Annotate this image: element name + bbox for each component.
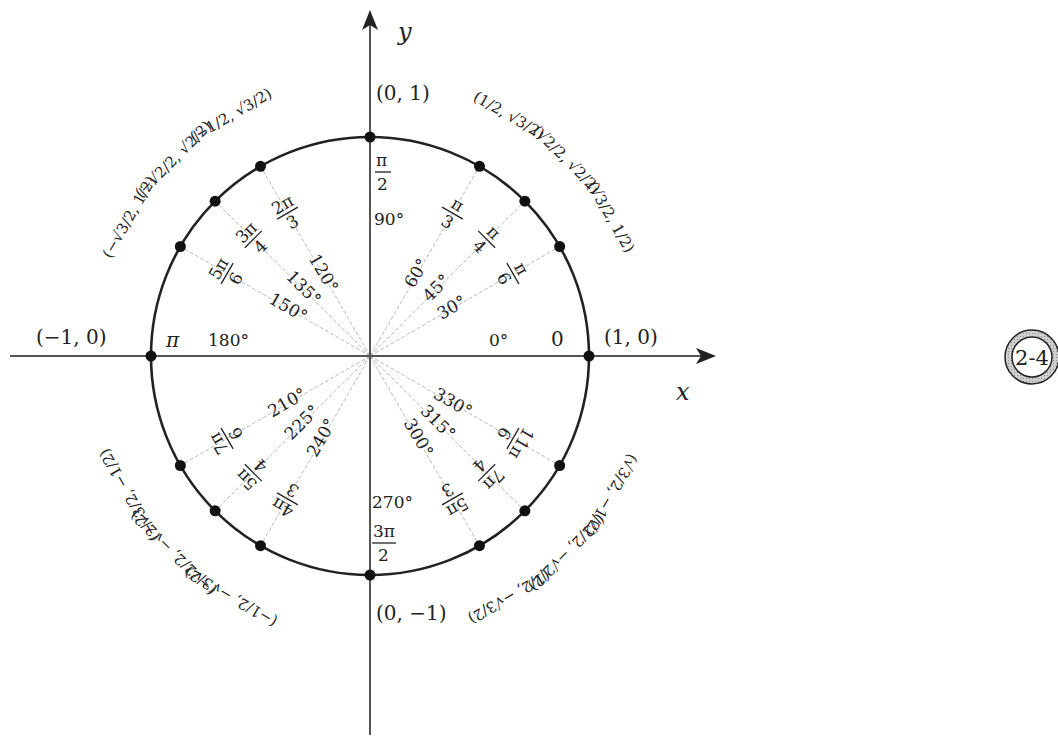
radian-top-num: π (376, 150, 387, 170)
radian-120: 2π3 (267, 190, 308, 237)
point-30 (554, 241, 565, 252)
radian-bottom-num: 3π (373, 521, 395, 541)
svg-text:3: 3 (283, 479, 302, 502)
point-135 (210, 196, 221, 207)
coord-150: (−√3/2, 1/2) (99, 173, 160, 261)
radian-150: 5π6 (204, 253, 251, 294)
unit-circle-figure: y x 30°π6(√3/2, 1/2)45°π4(√2/2, √2/2)60°… (0, 0, 1058, 743)
x-axis (10, 348, 716, 364)
x-axis-label: x (676, 378, 690, 406)
radian-bottom-den: 2 (378, 545, 389, 565)
radian-pi: π (165, 328, 180, 352)
point-90 (365, 132, 376, 143)
unit-circle-diagram: y x 30°π6(√3/2, 1/2)45°π4(√2/2, √2/2)60°… (0, 0, 1058, 743)
svg-text:3: 3 (283, 210, 302, 233)
point-225 (210, 505, 221, 516)
point-300 (474, 540, 485, 551)
point-270 (365, 570, 376, 581)
degree-180: 180° (208, 330, 249, 350)
point-240 (255, 540, 266, 551)
svg-text:6: 6 (224, 424, 247, 443)
coord-right: (1, 0) (604, 325, 658, 349)
radian-top-den: 2 (377, 174, 388, 194)
radian-210: 7π6 (204, 418, 251, 459)
coord-330: (√3/2, −1/2) (580, 451, 641, 539)
degree-270: 270° (372, 492, 413, 512)
y-axis-label: y (397, 18, 412, 46)
degree-90: 90° (374, 209, 404, 229)
point-150 (175, 241, 186, 252)
coord-left: (−1, 0) (36, 325, 107, 349)
svg-text:6: 6 (493, 424, 516, 443)
degree-0: 0° (489, 330, 508, 350)
point-0 (584, 351, 595, 362)
radian-330: 11π6 (487, 414, 538, 462)
point-330 (554, 460, 565, 471)
radian-300: 5π3 (432, 476, 473, 523)
point-210 (175, 460, 186, 471)
radian-240: 4π3 (267, 476, 308, 523)
figure-number-badge: 2-4 (1005, 330, 1058, 384)
y-axis (362, 10, 378, 735)
coord-top: (0, 1) (376, 81, 430, 105)
svg-text:6: 6 (224, 269, 247, 288)
radian-60: π3 (432, 190, 473, 237)
svg-text:3: 3 (438, 210, 457, 233)
svg-text:3: 3 (438, 479, 457, 502)
point-60 (474, 161, 485, 172)
point-120 (255, 161, 266, 172)
point-180 (146, 351, 157, 362)
radian-0: 0 (551, 327, 564, 351)
point-45 (519, 196, 530, 207)
svg-text:6: 6 (493, 269, 516, 288)
radian-30: π6 (490, 253, 537, 294)
point-315 (519, 505, 530, 516)
badge-label: 2-4 (1015, 346, 1049, 370)
coord-240: (−1/2, −√3/2) (181, 563, 280, 631)
coord-bottom: (0, −1) (376, 601, 447, 625)
coord-60: (1/2, √3/2) (470, 88, 547, 143)
